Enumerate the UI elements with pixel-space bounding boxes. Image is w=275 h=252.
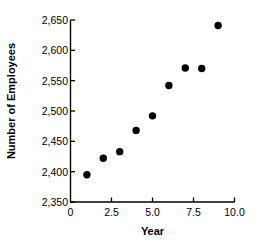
data-point: [182, 64, 189, 71]
x-tick-label: 0: [68, 206, 74, 218]
data-point: [132, 127, 139, 134]
x-tick-label: 5.0: [145, 206, 160, 218]
data-point: [149, 112, 156, 119]
axis-lines: [70, 20, 235, 203]
x-axis-title: Year: [70, 225, 235, 237]
scatter-chart: Number of Employees 2,3502,4002,4502,500…: [0, 0, 275, 252]
data-point: [165, 82, 172, 89]
data-point-group: [83, 22, 222, 179]
data-point: [100, 155, 107, 162]
data-point: [83, 171, 90, 178]
x-tick-label: 10.0: [224, 206, 244, 218]
x-tick-label: 2.5: [104, 206, 119, 218]
data-point: [198, 65, 205, 72]
data-point: [214, 22, 221, 29]
data-point: [116, 148, 123, 155]
x-tick-label: 7.5: [186, 206, 201, 218]
